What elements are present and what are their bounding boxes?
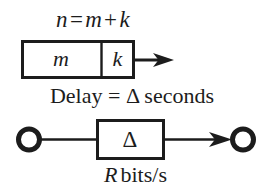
- delay-caption-delta-symbol: Δ: [126, 83, 139, 108]
- delay-caption: Delay = Δ seconds: [0, 85, 264, 107]
- rate-unit: bits/s: [120, 162, 166, 187]
- link-arrow: [164, 132, 233, 147]
- destination-node-circle: [233, 129, 254, 150]
- packet-size-equation: n=m+k: [0, 8, 186, 31]
- delay-element-label: Δ: [97, 128, 163, 151]
- delay-caption-equals: =: [108, 83, 120, 108]
- equation-term-k: k: [119, 7, 130, 32]
- equation-equals: =: [68, 7, 85, 32]
- packet-payload-label: m: [21, 48, 101, 70]
- equation-lhs: n: [56, 7, 68, 32]
- rate-symbol: R: [104, 162, 120, 187]
- delay-caption-prefix: Delay: [50, 83, 103, 108]
- rate-caption: Rbits/s: [0, 164, 271, 186]
- packet-delay-diagram: n=m+k m k Delay = Δ seconds Δ Rbits/s: [0, 0, 271, 194]
- delay-caption-suffix: seconds: [144, 83, 214, 108]
- packet-header-label: k: [101, 48, 134, 70]
- source-node-circle: [19, 129, 40, 150]
- equation-plus: +: [102, 7, 119, 32]
- equation-term-m: m: [85, 7, 102, 32]
- transmission-arrow: [134, 53, 174, 67]
